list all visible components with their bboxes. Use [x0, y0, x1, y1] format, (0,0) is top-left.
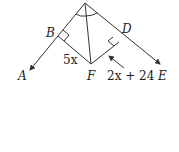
label-DF-length: 2x + 24 — [107, 69, 155, 83]
right-angle-marker-B — [63, 30, 69, 41]
angle-arc-right — [86, 13, 97, 16]
pointer-arrow-DF — [109, 56, 124, 68]
right-angle-marker-D2 — [113, 37, 124, 42]
label-F: F — [86, 69, 96, 83]
label-D: D — [121, 22, 132, 36]
label-E: E — [157, 69, 167, 83]
label-A: A — [17, 69, 27, 83]
bisector-segment — [85, 3, 91, 64]
angle-arc-left — [76, 14, 86, 16]
label-BF-length: 5x — [63, 53, 78, 67]
right-angle-marker-D — [113, 37, 124, 42]
label-B: B — [45, 26, 55, 40]
right-angle-marker-D3 — [108, 37, 114, 46]
angle-bisector-diagram: B A D E F 5x 2x + 24 — [0, 0, 179, 152]
